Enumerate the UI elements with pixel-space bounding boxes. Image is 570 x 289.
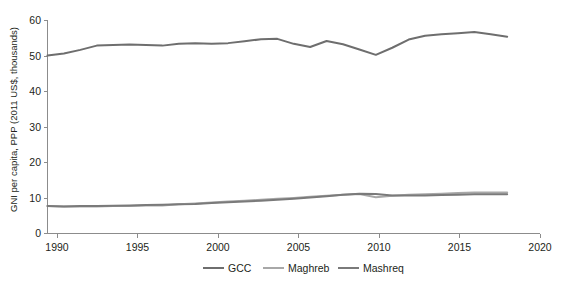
legend-item-maghreb[interactable]: Maghreb [263, 262, 330, 274]
x-tick-label: 2000 [206, 241, 230, 253]
y-tick-label: 30 [29, 121, 41, 133]
legend-item-mashreq[interactable]: Mashreq [338, 262, 404, 274]
legend-label: Mashreq [363, 262, 404, 274]
y-axis-ticks [44, 21, 48, 234]
y-axis-title: GNI per capita, PPP (2011 US$, thousands… [8, 27, 19, 212]
x-tick-label: 2005 [287, 241, 311, 253]
legend-label: Maghreb [288, 262, 330, 274]
y-tick-label: 60 [29, 14, 41, 26]
y-axis-tick-labels: 0 10 20 30 40 50 60 [29, 14, 41, 239]
x-tick-label: 1990 [45, 241, 69, 253]
series-line-mashreq [48, 194, 508, 207]
y-tick-label: 0 [35, 227, 41, 239]
x-tick-label: 2010 [367, 241, 391, 253]
y-tick-label: 40 [29, 85, 41, 97]
data-series-layer [48, 32, 508, 206]
chart-legend: GCC Maghreb Mashreq [203, 262, 404, 274]
x-tick-label: 2015 [448, 241, 472, 253]
x-tick-label: 2020 [528, 241, 552, 253]
x-axis-tick-labels: 1990 1995 2000 2005 2010 2015 2020 [45, 241, 552, 253]
legend-item-gcc[interactable]: GCC [203, 262, 252, 274]
x-tick-label: 1995 [126, 241, 150, 253]
y-tick-label: 50 [29, 50, 41, 62]
chart-container: GNI per capita, PPP (2011 US$, thousands… [0, 0, 570, 289]
series-line-gcc [48, 32, 508, 55]
x-axis-ticks [58, 234, 541, 239]
line-chart: GNI per capita, PPP (2011 US$, thousands… [0, 0, 570, 289]
y-tick-label: 10 [29, 192, 41, 204]
y-tick-label: 20 [29, 156, 41, 168]
legend-label: GCC [228, 262, 252, 274]
